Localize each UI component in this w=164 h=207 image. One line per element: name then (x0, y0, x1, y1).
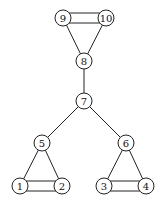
node-label: 9 (60, 13, 66, 24)
node-9: 9 (55, 10, 71, 26)
node-label: 7 (81, 96, 87, 107)
node-label: 4 (143, 181, 149, 192)
node-4: 4 (138, 178, 154, 194)
node-2: 2 (54, 178, 70, 194)
node-label: 5 (39, 138, 45, 149)
node-label: 8 (81, 56, 87, 67)
node-5: 5 (34, 135, 50, 151)
node-6: 6 (118, 135, 134, 151)
node-label: 10 (100, 13, 113, 24)
node-3: 3 (96, 178, 112, 194)
edge-7-6 (84, 101, 126, 143)
node-8: 8 (76, 53, 92, 69)
nodes-layer: 12345678910 (12, 10, 154, 194)
node-1: 1 (12, 178, 28, 194)
node-7: 7 (76, 93, 92, 109)
node-label: 3 (101, 181, 107, 192)
node-10: 10 (98, 10, 114, 26)
edge-7-5 (42, 101, 84, 143)
node-label: 6 (123, 138, 129, 149)
graph-diagram: 12345678910 (0, 0, 164, 207)
node-label: 1 (17, 181, 23, 192)
node-label: 2 (59, 181, 65, 192)
